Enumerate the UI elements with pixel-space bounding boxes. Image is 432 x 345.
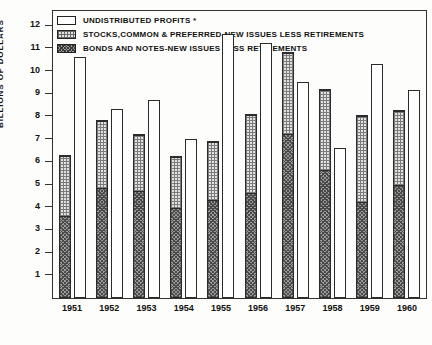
bar-sources <box>207 141 219 298</box>
bar-undistributed-profits <box>260 43 272 297</box>
bar-sources <box>319 89 331 298</box>
y-axis-tick-label: 5 <box>35 178 40 188</box>
bar-undistributed-profits <box>222 34 234 297</box>
y-axis-tick-label: 12 <box>30 19 40 29</box>
bar-undistributed-profits <box>185 139 197 298</box>
bar-segment-profits <box>261 44 271 296</box>
bar-sources <box>133 134 145 297</box>
bar-segment-profits <box>335 149 345 297</box>
bar-undistributed-profits <box>74 57 86 298</box>
bar-segment-stocks <box>246 115 256 194</box>
bar-undistributed-profits <box>371 64 383 298</box>
y-axis-title: BILLIONS OF DOLLARS <box>0 0 5 128</box>
x-axis-tick-label: 1960 <box>385 303 429 313</box>
bar-segment-stocks <box>357 116 367 202</box>
bar-segment-bonds <box>208 200 218 296</box>
bar-sources <box>393 110 405 297</box>
bar-undistributed-profits <box>334 148 346 298</box>
bar-segment-bonds <box>134 191 144 296</box>
y-axis-tick-mark <box>45 206 52 207</box>
bar-segment-profits <box>298 83 308 297</box>
bar-segment-bonds <box>171 208 181 296</box>
y-axis-tick-mark <box>45 274 52 275</box>
bar-group <box>240 12 277 298</box>
y-axis-tick-mark <box>45 25 52 26</box>
y-axis-tick-mark <box>45 184 52 185</box>
y-axis-tick-label: 2 <box>35 246 40 256</box>
bar-group <box>314 12 351 298</box>
bar-segment-profits <box>223 35 233 296</box>
bar-sources <box>356 115 368 298</box>
bar-sources <box>59 155 71 298</box>
bar-group <box>128 12 165 298</box>
bar-sources <box>282 52 294 297</box>
bar-segment-bonds <box>394 185 404 296</box>
bar-group <box>165 12 202 298</box>
bar-segment-stocks <box>394 111 404 185</box>
y-axis-tick-mark <box>45 161 52 162</box>
bar-group <box>388 12 425 298</box>
bar-segment-bonds <box>320 170 330 297</box>
bar-segment-stocks <box>97 121 107 187</box>
bar-segment-stocks <box>320 90 330 170</box>
bar-group <box>54 12 91 298</box>
bar-segment-stocks <box>60 156 70 216</box>
bar-undistributed-profits <box>111 109 123 297</box>
y-axis: BILLIONS OF DOLLARS 123456789101112 <box>0 10 52 299</box>
y-axis-tick-label: 10 <box>30 65 40 75</box>
bar-undistributed-profits <box>297 82 309 298</box>
y-axis-tick-label: 6 <box>35 155 40 165</box>
y-axis-tick-label: 1 <box>35 269 40 279</box>
bar-group <box>91 12 128 298</box>
bar-segment-bonds <box>246 193 256 296</box>
bar-segment-profits <box>409 91 419 297</box>
y-axis-tick-mark <box>45 115 52 116</box>
y-axis-tick-mark <box>45 47 52 48</box>
bar-segment-stocks <box>208 142 218 200</box>
y-axis-tick-mark <box>45 138 52 139</box>
bar-segment-bonds <box>357 202 367 296</box>
y-axis-tick-label: 8 <box>35 110 40 120</box>
bar-segment-stocks <box>134 135 144 191</box>
bar-segment-profits <box>149 101 159 296</box>
bar-segment-profits <box>186 140 196 297</box>
bar-segment-profits <box>75 58 85 297</box>
y-axis-tick-label: 9 <box>35 87 40 97</box>
y-axis-tick-mark <box>45 93 52 94</box>
plot-area <box>54 12 426 298</box>
bar-sources <box>170 156 182 298</box>
bar-segment-bonds <box>97 188 107 297</box>
y-axis-tick-mark <box>45 229 52 230</box>
y-axis-tick-label: 4 <box>35 201 40 211</box>
bar-segment-bonds <box>283 134 293 296</box>
y-axis-tick-label: 11 <box>30 42 40 52</box>
bar-segment-stocks <box>171 157 181 208</box>
bar-group <box>351 12 388 298</box>
chart-figure: BILLIONS OF DOLLARS 123456789101112 UNDI… <box>0 0 432 345</box>
y-axis-tick-mark <box>45 70 52 71</box>
bar-sources <box>245 114 257 298</box>
bar-segment-stocks <box>283 53 293 134</box>
y-axis-tick-mark <box>45 252 52 253</box>
bar-segment-profits <box>112 110 122 296</box>
bar-group <box>202 12 239 298</box>
bar-sources <box>96 120 108 297</box>
y-axis-tick-label: 7 <box>35 133 40 143</box>
bar-group <box>277 12 314 298</box>
bar-undistributed-profits <box>148 100 160 297</box>
y-axis-tick-label: 3 <box>35 223 40 233</box>
bar-segment-profits <box>372 65 382 297</box>
bar-undistributed-profits <box>408 90 420 298</box>
bar-segment-bonds <box>60 216 70 297</box>
